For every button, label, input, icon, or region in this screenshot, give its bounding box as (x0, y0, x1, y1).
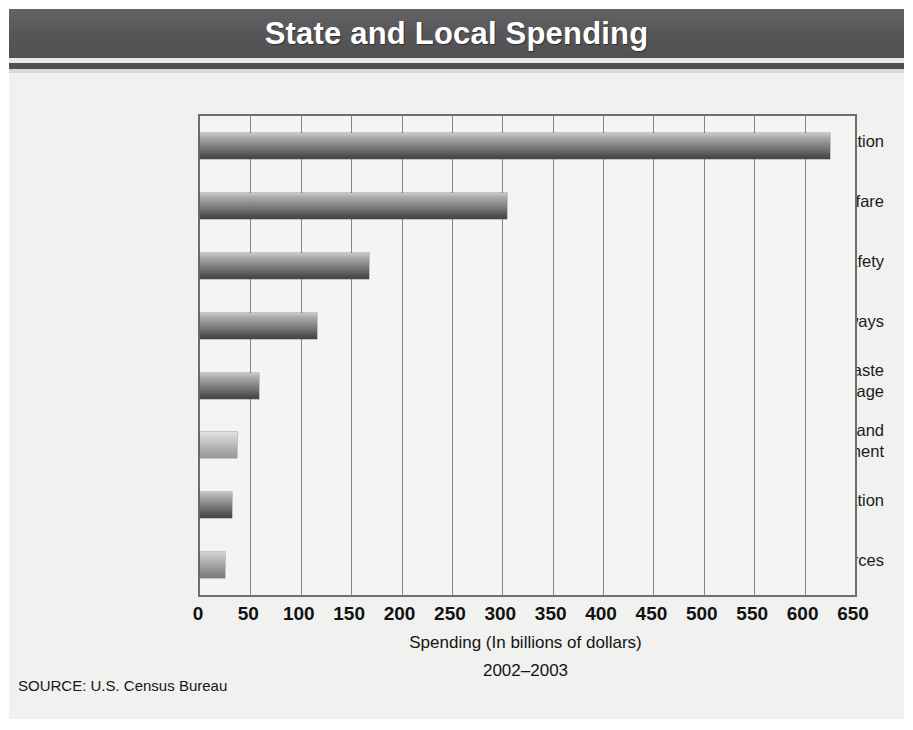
bar-row (200, 296, 855, 356)
chart-figure: State and Local Spending EducationPublic… (0, 0, 913, 730)
bar-row (200, 176, 855, 236)
bar-row (200, 356, 855, 416)
bar-row (200, 475, 855, 535)
page-edge-bottom (0, 719, 913, 730)
bar-row (200, 116, 855, 176)
bar (200, 432, 237, 458)
source-note: SOURCE: U.S. Census Bureau (18, 677, 227, 694)
page-edge-right (904, 0, 913, 730)
bar (200, 133, 830, 159)
x-axis-title: Spending (In billions of dollars) (198, 633, 853, 653)
bar-row (200, 415, 855, 475)
chart-title: State and Local Spending (9, 9, 904, 58)
chart-panel: EducationPublic WelfarePublic SafetyHigh… (9, 73, 904, 719)
x-tick-label: 650 (823, 603, 883, 625)
x-axis-period: 2002–2003 (198, 661, 853, 681)
page-edge-top (0, 0, 913, 9)
bar-row (200, 236, 855, 296)
bar (200, 193, 507, 219)
bar (200, 373, 259, 399)
chart-header-band: State and Local Spending (9, 9, 904, 58)
bar (200, 492, 232, 518)
bar (200, 313, 317, 339)
bar (200, 552, 225, 578)
page-edge-left (0, 0, 9, 730)
bar (200, 253, 369, 279)
plot-area (198, 114, 857, 597)
bar-row (200, 535, 855, 595)
